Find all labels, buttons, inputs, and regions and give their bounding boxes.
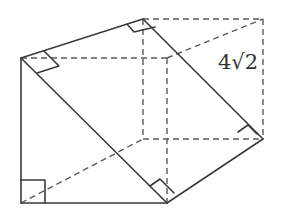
right-angle-mark-e bbox=[150, 179, 174, 193]
right-angle-mark-b bbox=[127, 24, 155, 32]
right-angle-mark-f bbox=[21, 180, 45, 203]
edge-length-label: 4√2 bbox=[218, 50, 258, 74]
prism-diagram bbox=[0, 0, 284, 209]
right-angle-mark-a bbox=[37, 51, 59, 73]
visible-edges bbox=[21, 19, 263, 203]
